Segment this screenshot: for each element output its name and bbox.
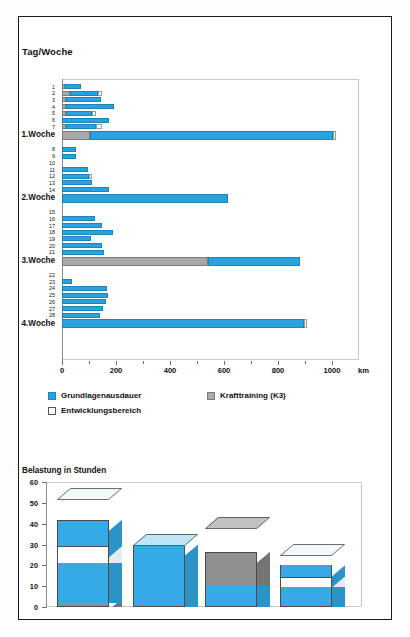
day-row-label: 5: [0, 110, 58, 116]
top-chart-bar: [62, 147, 76, 152]
top-chart-bar: [62, 293, 108, 298]
top-chart-bar: [62, 124, 103, 129]
top-chart-bar: [62, 306, 103, 311]
bar-top-outline: [280, 544, 345, 557]
top-chart-bar: [62, 118, 109, 123]
legend-item-grundlagenausdauer: Grundlagenausdauer: [48, 391, 141, 400]
day-row-label: 23: [0, 279, 58, 285]
bar-segment-entw: [304, 319, 307, 328]
x-axis-minor-tick: [143, 361, 144, 364]
bar-segment-kraft: [62, 91, 70, 96]
y-axis-tick-label: 10: [30, 582, 38, 591]
legend-label-krafttraining: Krafttraining (K3): [220, 391, 286, 400]
x-axis-minor-tick: [89, 361, 90, 364]
bar-front-face-wht: [280, 577, 332, 587]
legend-label-entwicklungsbereich: Entwicklungsbereich: [61, 406, 141, 415]
day-row-label: 2: [0, 90, 58, 96]
day-row-label: 10: [0, 160, 58, 166]
y-axis-tick: [42, 545, 46, 546]
bar-segment-gla: [62, 180, 92, 185]
day-row-label: 25: [0, 292, 58, 298]
y-axis-tick-label: 50: [30, 498, 38, 507]
day-row-label: 16: [0, 216, 58, 222]
day-row-label: 17: [0, 223, 58, 229]
bar-segment-gla: [62, 167, 88, 172]
x-axis-minor-tick: [251, 361, 252, 364]
day-row-label: 6: [0, 117, 58, 123]
bottom-chart-bar: [57, 488, 122, 607]
day-row-label: 20: [0, 243, 58, 249]
y-axis-tick-label: 30: [30, 540, 38, 549]
bar-segment-gla: [65, 84, 81, 89]
bar-segment-gla: [62, 118, 109, 123]
x-axis-tick: [278, 361, 279, 365]
x-axis-tick-label: 600: [218, 366, 231, 375]
bar-segment-gla: [62, 319, 304, 328]
top-chart-bar: [62, 180, 92, 185]
bottom-chart-bar: [280, 544, 345, 607]
top-chart-bar: [62, 84, 81, 89]
y-axis-tick-label: 0: [34, 603, 38, 612]
day-row-label: 18: [0, 229, 58, 235]
bar-segment-gla: [62, 194, 228, 203]
bar-segment-gla: [62, 306, 103, 311]
y-axis-tick: [42, 586, 46, 587]
x-axis-tick-label: 200: [110, 366, 123, 375]
x-axis-tick: [170, 361, 171, 365]
bar-front-face-gray: [205, 552, 257, 585]
legend-row-2: Entwicklungsbereich: [48, 405, 368, 419]
legend-swatch-blue-icon: [48, 392, 56, 400]
top-chart-bar: [62, 223, 102, 228]
top-chart-bar: [62, 111, 96, 116]
x-axis-tick-label: 1000: [324, 366, 341, 375]
bar-segment-entw: [92, 111, 96, 116]
top-chart-bar: [62, 216, 95, 221]
bar-segment-gla: [62, 293, 108, 298]
chart-legend: Grundlagenausdauer Krafttraining (K3) En…: [48, 391, 368, 419]
bar-segment-gla: [62, 236, 91, 241]
top-chart-x-unit-label: km: [358, 366, 369, 375]
week-row-label: 4.Woche: [0, 319, 58, 328]
day-row-label: 11: [0, 167, 58, 173]
day-row-label: 22: [0, 272, 58, 278]
y-axis-tick-label: 40: [30, 519, 38, 528]
day-row-label: 4: [0, 104, 58, 110]
day-row-label: 19: [0, 236, 58, 242]
bar-segment-gla: [62, 223, 102, 228]
x-axis-minor-tick: [197, 361, 198, 364]
bar-segment-gla: [62, 286, 107, 291]
bar-segment-gla: [62, 250, 104, 255]
bar-segment-gla: [62, 299, 106, 304]
y-axis-tick: [42, 607, 46, 608]
bar-top-outline: [205, 517, 270, 530]
day-row-label: 28: [0, 312, 58, 318]
bar-segment-gla: [66, 97, 101, 102]
bar-segment-gla: [62, 174, 89, 179]
legend-label-grundlagenausdauer: Grundlagenausdauer: [61, 391, 141, 400]
figure-page: Tag/Woche 12345671.Woche8910111213142.Wo…: [0, 0, 410, 637]
bar-segment-gla: [70, 91, 98, 96]
top-chart-title: Tag/Woche: [22, 46, 73, 57]
bar-segment-gla: [62, 243, 102, 248]
bar-front-face-wht: [57, 546, 109, 563]
bar-top-outline: [133, 534, 198, 547]
day-row-label: 13: [0, 180, 58, 186]
x-axis-tick-label: 800: [272, 366, 285, 375]
legend-item-krafttraining: Krafttraining (K3): [207, 391, 286, 400]
bar-top-outline: [57, 488, 122, 501]
x-axis-tick-label: 400: [164, 366, 177, 375]
day-row-label: 15: [0, 209, 58, 215]
day-row-label: 3: [0, 97, 58, 103]
y-axis-tick: [42, 524, 46, 525]
top-chart-bar: [62, 97, 101, 102]
week-row-label: 3.Woche: [0, 256, 58, 265]
top-chart-bar: [62, 313, 100, 318]
top-chart-bar: [62, 286, 107, 291]
bottom-chart-y-axis-line: [46, 482, 47, 608]
week-row-label: 1.Woche: [0, 130, 58, 139]
bar-segment-entw: [333, 131, 336, 140]
legend-swatch-white-icon: [48, 407, 56, 415]
x-axis-tick: [116, 361, 117, 365]
y-axis-tick-label: 60: [30, 478, 38, 487]
top-chart-bar: [62, 154, 76, 159]
